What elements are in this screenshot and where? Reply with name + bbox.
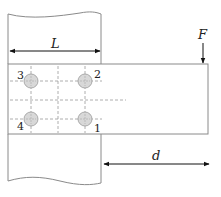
bolt-label-1: 1 bbox=[94, 122, 101, 135]
length-label: L bbox=[50, 36, 60, 51]
bolt-3 bbox=[24, 74, 38, 88]
bolted-bracket-diagram: 3 2 4 1 L F d bbox=[0, 0, 221, 197]
force-label: F bbox=[197, 27, 208, 42]
eccentricity-label: d bbox=[152, 148, 160, 163]
bracket-plate bbox=[8, 64, 208, 134]
bolt-label-2: 2 bbox=[94, 68, 101, 81]
bolt-2 bbox=[78, 74, 92, 88]
bolt-label-4: 4 bbox=[17, 120, 24, 133]
bolt-label-3: 3 bbox=[17, 69, 24, 82]
column-lower bbox=[8, 134, 101, 185]
bolt-1 bbox=[78, 112, 92, 126]
bolt-4 bbox=[24, 112, 38, 126]
